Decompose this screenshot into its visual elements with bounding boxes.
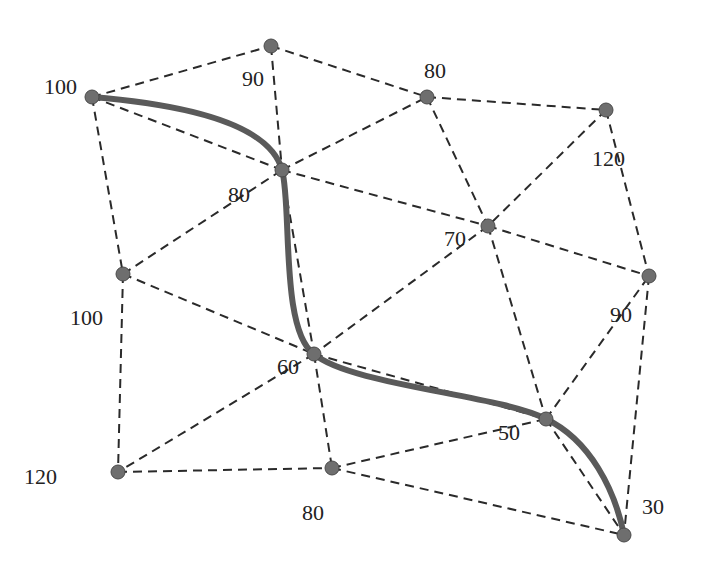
edge-A-G [92,97,123,274]
node-label-C: 80 [424,58,446,83]
node-M [617,528,631,542]
edge-K-L [118,468,332,472]
node-labels: 100908012080701009060501208030 [24,58,664,525]
edge-J-H [546,276,649,419]
edge-D-F [488,110,606,226]
node-label-F: 70 [444,226,466,251]
edge-B-C [271,46,427,97]
node-K [111,465,125,479]
dashed-edges [92,46,649,535]
node-I [307,347,321,361]
node-G [116,267,130,281]
node-D [599,103,613,117]
highlighted-shortest-path [92,97,624,535]
edge-E-C [282,97,427,170]
edge-I-L [314,354,332,468]
node-J [539,412,553,426]
node-label-I: 60 [277,354,299,379]
edge-F-J [488,226,546,419]
edge-F-H [488,226,649,276]
node-C [420,90,434,104]
node-B [264,39,278,53]
node-F [481,219,495,233]
edge-C-D [427,97,606,110]
node-A [85,90,99,104]
edge-J-M [546,419,624,535]
node-label-E: 80 [228,182,250,207]
edge-C-F [427,97,488,226]
node-label-L: 80 [302,500,324,525]
node-label-G: 100 [70,305,103,330]
network-graph: 100908012080701009060501208030 [0,0,707,569]
edge-G-I [123,274,314,354]
node-label-J: 50 [498,420,520,445]
edge-G-E [123,170,282,274]
node-label-D: 120 [592,146,625,171]
node-label-K: 120 [24,464,57,489]
node-label-M: 30 [642,494,664,519]
node-label-A: 100 [44,74,77,99]
graph-nodes [85,39,656,542]
node-label-B: 90 [242,66,264,91]
node-L [325,461,339,475]
node-H [642,269,656,283]
node-label-H: 90 [610,302,632,327]
node-E [275,163,289,177]
edge-D-H [606,110,649,276]
edge-G-K [118,274,123,472]
edge-L-M [332,468,624,535]
edge-E-F [282,170,488,226]
